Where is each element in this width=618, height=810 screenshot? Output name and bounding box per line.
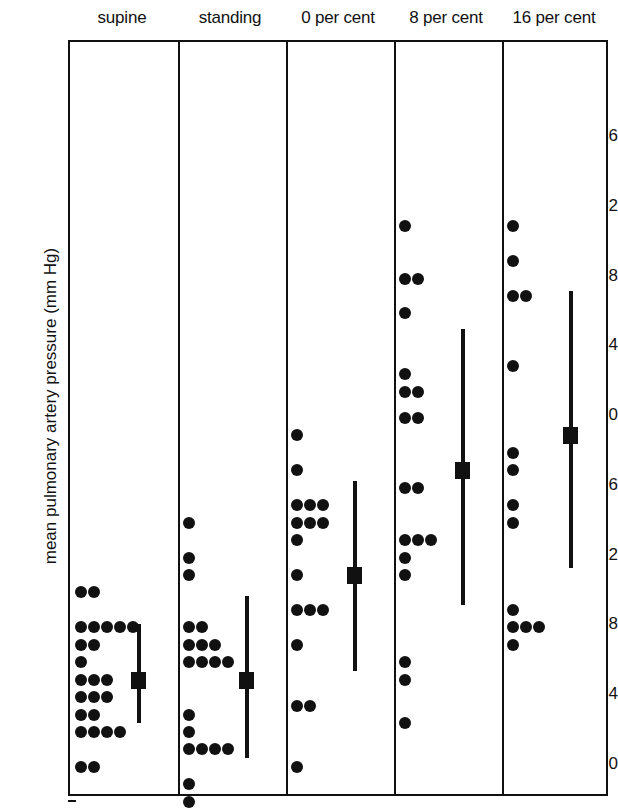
data-point	[291, 639, 303, 651]
data-point	[412, 386, 424, 398]
data-point	[399, 656, 411, 668]
data-point	[101, 621, 113, 633]
column-header-16-per-cent: 16 per cent	[500, 8, 608, 28]
data-point	[183, 569, 195, 581]
column-header-standing: standing	[176, 8, 284, 28]
data-point	[183, 796, 195, 808]
data-point	[399, 569, 411, 581]
data-point	[304, 700, 316, 712]
data-point	[507, 290, 519, 302]
data-point	[399, 307, 411, 319]
data-point	[520, 290, 532, 302]
data-point	[75, 761, 87, 773]
data-point	[399, 482, 411, 494]
data-point	[291, 464, 303, 476]
data-point	[183, 621, 195, 633]
data-point	[88, 726, 100, 738]
data-point	[183, 709, 195, 721]
data-point	[183, 778, 195, 790]
data-point	[317, 604, 329, 616]
column-header-0-per-cent: 0 per cent	[284, 8, 392, 28]
data-point	[75, 586, 87, 598]
mean-marker	[455, 462, 470, 479]
data-point	[183, 743, 195, 755]
data-point	[88, 586, 100, 598]
data-point	[399, 273, 411, 285]
data-point	[412, 273, 424, 285]
data-point	[291, 761, 303, 773]
data-point	[88, 761, 100, 773]
data-point	[114, 621, 126, 633]
data-point	[88, 674, 100, 686]
mean-marker	[563, 427, 578, 444]
data-point	[75, 709, 87, 721]
data-point	[183, 552, 195, 564]
data-point	[507, 360, 519, 372]
data-point	[412, 482, 424, 494]
data-point	[291, 604, 303, 616]
data-point	[520, 621, 532, 633]
data-point	[399, 386, 411, 398]
data-point	[75, 726, 87, 738]
data-point	[507, 220, 519, 232]
data-point	[101, 726, 113, 738]
data-point	[222, 743, 234, 755]
data-point	[196, 743, 208, 755]
data-point	[507, 447, 519, 459]
column-divider	[286, 42, 288, 794]
data-point	[317, 517, 329, 529]
data-point	[304, 517, 316, 529]
data-point	[291, 534, 303, 546]
data-point	[101, 674, 113, 686]
mean-marker	[239, 672, 254, 689]
data-point	[291, 700, 303, 712]
data-point	[399, 220, 411, 232]
data-point	[209, 639, 221, 651]
data-point	[507, 604, 519, 616]
data-point	[399, 534, 411, 546]
data-point	[183, 656, 195, 668]
data-point	[183, 517, 195, 529]
data-point	[533, 621, 545, 633]
y-tick-minor	[68, 800, 76, 802]
data-point	[88, 691, 100, 703]
data-point	[75, 691, 87, 703]
data-point	[304, 604, 316, 616]
data-point	[183, 726, 195, 738]
data-point	[88, 621, 100, 633]
data-point	[507, 621, 519, 633]
data-point	[291, 517, 303, 529]
data-point	[412, 534, 424, 546]
data-point	[507, 464, 519, 476]
data-point	[399, 717, 411, 729]
data-point	[75, 621, 87, 633]
mean-marker	[131, 672, 146, 689]
data-point	[88, 639, 100, 651]
data-point	[412, 412, 424, 424]
data-point	[507, 639, 519, 651]
data-point	[209, 743, 221, 755]
data-point	[88, 709, 100, 721]
data-point	[507, 499, 519, 511]
data-point	[196, 621, 208, 633]
data-point	[304, 499, 316, 511]
y-axis-title: mean pulmonary artery pressure (mm Hg)	[41, 126, 61, 686]
column-header-supine: supine	[68, 8, 176, 28]
data-point	[101, 691, 113, 703]
data-point	[507, 255, 519, 267]
data-point	[399, 368, 411, 380]
data-point	[209, 656, 221, 668]
data-point	[291, 569, 303, 581]
data-point	[507, 517, 519, 529]
plot-area	[68, 40, 608, 796]
column-header-8-per-cent: 8 per cent	[392, 8, 500, 28]
mean-marker	[347, 567, 362, 584]
column-divider	[394, 42, 396, 794]
data-point	[183, 639, 195, 651]
data-point	[399, 552, 411, 564]
data-point	[425, 534, 437, 546]
data-point	[291, 429, 303, 441]
data-point	[114, 726, 126, 738]
data-point	[291, 499, 303, 511]
data-point	[222, 656, 234, 668]
